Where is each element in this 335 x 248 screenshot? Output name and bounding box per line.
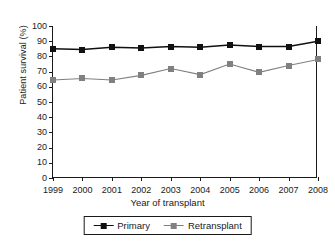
series-line-primary xyxy=(53,41,318,49)
y-axis-tick xyxy=(49,148,53,149)
legend-label-primary: Primary xyxy=(117,220,150,231)
y-axis-tick-label: 10 xyxy=(23,158,47,167)
x-axis-tick xyxy=(141,177,142,181)
data-point-retransplant xyxy=(315,56,321,62)
y-axis-tick xyxy=(49,117,53,118)
plot-area: 0102030405060708090100199920002001200220… xyxy=(52,26,317,178)
legend-item-primary[interactable]: Primary xyxy=(93,220,150,231)
y-axis-tick-label: 40 xyxy=(23,113,47,122)
y-axis-tick-label: 60 xyxy=(23,82,47,91)
chart-legend: Primary Retransplant xyxy=(83,216,252,235)
y-axis-tick xyxy=(49,41,53,42)
data-point-retransplant xyxy=(227,61,233,67)
y-axis-tick xyxy=(49,163,53,164)
x-axis-tick xyxy=(318,177,319,181)
x-axis-title: Year of transplant xyxy=(0,197,335,208)
chart-figure: Patient survival (%) 0102030405060708090… xyxy=(0,0,335,248)
x-axis-tick xyxy=(230,177,231,181)
x-axis-tick xyxy=(200,177,201,181)
y-axis-tick-label: 50 xyxy=(23,98,47,107)
data-point-primary xyxy=(50,46,56,52)
y-axis-tick xyxy=(49,56,53,57)
y-axis-tick-label: 20 xyxy=(23,143,47,152)
y-axis-tick xyxy=(49,72,53,73)
data-point-retransplant xyxy=(79,75,85,81)
data-point-retransplant xyxy=(286,63,292,69)
data-point-primary xyxy=(315,38,321,44)
y-axis-tick-label: 0 xyxy=(23,174,47,183)
series-line-retransplant xyxy=(53,59,318,80)
y-axis-tick xyxy=(49,26,53,27)
data-point-primary xyxy=(109,44,115,50)
x-axis-tick xyxy=(53,177,54,181)
y-axis-tick-label: 100 xyxy=(23,22,47,31)
x-axis-tick xyxy=(171,177,172,181)
data-point-primary xyxy=(168,44,174,50)
y-axis-tick-label: 70 xyxy=(23,67,47,76)
data-point-primary xyxy=(197,44,203,50)
data-point-primary xyxy=(79,47,85,53)
plot-inner: 0102030405060708090100199920002001200220… xyxy=(53,26,317,177)
legend-label-retransplant: Retransplant xyxy=(188,220,242,231)
data-point-retransplant xyxy=(109,77,115,83)
data-point-primary xyxy=(227,42,233,48)
series-lines xyxy=(53,26,318,178)
y-axis-tick-label: 30 xyxy=(23,128,47,137)
data-point-retransplant xyxy=(50,77,56,83)
data-point-primary xyxy=(138,45,144,51)
x-axis-tick xyxy=(82,177,83,181)
data-point-retransplant xyxy=(256,69,262,75)
data-point-retransplant xyxy=(168,66,174,72)
x-axis-tick-label: 2008 xyxy=(298,186,335,195)
x-axis-tick xyxy=(289,177,290,181)
legend-item-retransplant[interactable]: Retransplant xyxy=(164,220,242,231)
data-point-retransplant xyxy=(197,72,203,78)
data-point-primary xyxy=(256,44,262,50)
y-axis-tick xyxy=(49,132,53,133)
legend-marker-retransplant-icon xyxy=(164,222,184,229)
x-axis-tick xyxy=(112,177,113,181)
data-point-retransplant xyxy=(138,72,144,78)
legend-marker-primary-icon xyxy=(93,222,113,229)
y-axis-tick xyxy=(49,102,53,103)
y-axis-tick xyxy=(49,87,53,88)
y-axis-tick-label: 80 xyxy=(23,52,47,61)
y-axis-tick-label: 90 xyxy=(23,37,47,46)
x-axis-tick xyxy=(259,177,260,181)
data-point-primary xyxy=(286,44,292,50)
